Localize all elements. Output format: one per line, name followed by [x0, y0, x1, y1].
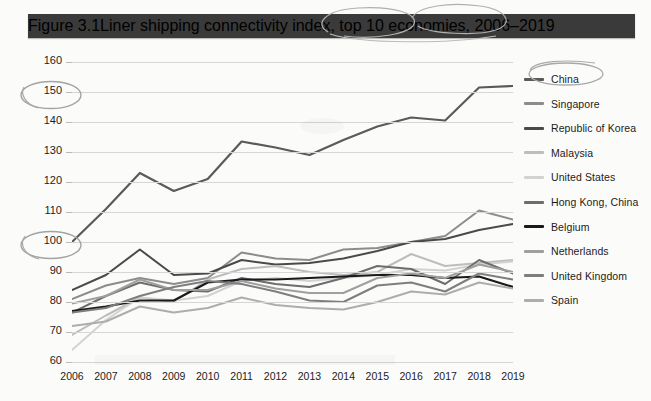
series-line — [72, 283, 513, 327]
y-axis-label: 70 — [22, 324, 62, 336]
legend-swatch — [524, 201, 544, 204]
legend-swatch — [524, 102, 544, 105]
legend-item[interactable]: China — [524, 70, 579, 88]
legend-swatch — [524, 225, 544, 228]
legend-item[interactable]: Spain — [524, 291, 578, 309]
legend-label: United Kingdom — [551, 270, 627, 282]
gridline — [72, 302, 513, 303]
y-axis-tick — [66, 152, 72, 153]
page-title: Liner shipping connectivity index, top 1… — [100, 17, 555, 35]
y-axis-tick — [66, 92, 72, 93]
plot-area — [72, 62, 513, 362]
y-axis-label: 60 — [22, 354, 62, 366]
y-axis-label: 140 — [22, 114, 62, 126]
y-axis-label: 150 — [22, 84, 62, 96]
legend-item[interactable]: Republic of Korea — [524, 119, 636, 137]
legend-label: Netherlands — [551, 245, 609, 257]
legend-label: Spain — [551, 294, 578, 306]
gridline — [72, 92, 513, 93]
y-axis-tick — [66, 182, 72, 183]
legend-swatch — [524, 299, 544, 302]
legend-swatch — [524, 127, 544, 130]
legend-item[interactable]: Malaysia — [524, 144, 593, 162]
legend-item[interactable]: Belgium — [524, 218, 590, 236]
chart-legend: ChinaSingaporeRepublic of KoreaMalaysiaU… — [524, 60, 651, 310]
y-axis-tick — [66, 362, 72, 363]
gridline — [72, 332, 513, 333]
legend-label: Hong Kong, China — [551, 196, 638, 208]
y-axis-label: 100 — [22, 234, 62, 246]
y-axis-label: 130 — [22, 144, 62, 156]
y-axis-label: 80 — [22, 294, 62, 306]
y-axis-tick — [66, 272, 72, 273]
series-line — [72, 260, 513, 313]
figure-title-bar: Figure 3.1 Liner shipping connectivity i… — [28, 14, 635, 38]
legend-label: United States — [551, 171, 615, 183]
y-axis-tick — [66, 302, 72, 303]
gridline — [72, 152, 513, 153]
legend-label: Singapore — [551, 98, 600, 110]
legend-label: Republic of Korea — [551, 122, 636, 134]
legend-swatch — [524, 250, 544, 253]
y-axis-label: 90 — [22, 264, 62, 276]
x-axis-label: 2019 — [493, 370, 533, 382]
legend-label: China — [551, 73, 579, 85]
series-line — [72, 86, 513, 242]
gridline — [72, 272, 513, 273]
y-axis-tick — [66, 62, 72, 63]
legend-item[interactable]: Netherlands — [524, 242, 609, 260]
y-axis-label: 160 — [22, 54, 62, 66]
legend-item[interactable]: United Kingdom — [524, 267, 627, 285]
legend-label: Belgium — [551, 221, 590, 233]
y-axis-label: 120 — [22, 174, 62, 186]
gridline — [72, 362, 513, 363]
gridline — [72, 122, 513, 123]
y-axis-tick — [66, 212, 72, 213]
gridline — [72, 242, 513, 243]
legend-label: Malaysia — [551, 147, 593, 159]
legend-swatch — [524, 274, 544, 277]
gridline — [72, 212, 513, 213]
legend-swatch — [524, 176, 544, 179]
legend-item[interactable]: Hong Kong, China — [524, 193, 638, 211]
y-axis-tick — [66, 122, 72, 123]
legend-item[interactable]: United States — [524, 168, 615, 186]
y-axis-label: 110 — [22, 204, 62, 216]
legend-item[interactable]: Singapore — [524, 95, 600, 113]
legend-swatch — [524, 78, 544, 81]
gridline — [72, 62, 513, 63]
y-axis-tick — [66, 332, 72, 333]
gridline — [72, 182, 513, 183]
legend-swatch — [524, 151, 544, 154]
y-axis-tick — [66, 242, 72, 243]
figure-number: Figure 3.1 — [28, 17, 100, 35]
